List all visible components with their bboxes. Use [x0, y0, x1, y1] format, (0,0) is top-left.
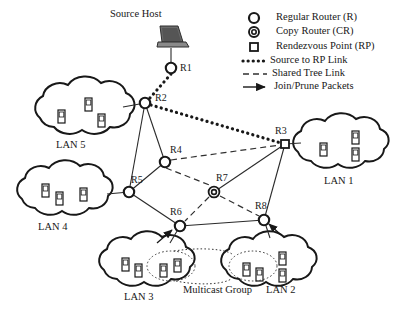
- lan-label-lan5: LAN 5: [56, 140, 85, 151]
- node-r1[interactable]: [166, 63, 176, 73]
- node-r7[interactable]: [209, 187, 220, 198]
- legend-double-circle-icon: [249, 27, 259, 37]
- source-host-laptop: [157, 26, 189, 47]
- legend-label-source-to-rp: Source to RP Link: [270, 55, 347, 66]
- lan-label-lan4: LAN 4: [38, 222, 67, 233]
- lan-cloud-lan4: [17, 160, 112, 215]
- legend-label-shared-tree: Shared Tree Link: [272, 68, 345, 79]
- lan-cloud-lan3: [99, 231, 194, 286]
- node-label-r6: R6: [170, 207, 182, 217]
- link-r7-r6-tree: [185, 197, 209, 221]
- node-r3[interactable]: [281, 140, 289, 148]
- lan-cloud-lan5: [35, 77, 134, 134]
- node-r5[interactable]: [124, 187, 134, 197]
- legend-label-regular-router: Regular Router (R): [276, 12, 357, 23]
- source-to-rp-links: [149, 74, 281, 143]
- source-host-label: Source Host: [110, 9, 162, 20]
- link-r2-r3-srp: [151, 105, 281, 143]
- link-r4-r3-tree: [171, 145, 280, 160]
- link-r7-r8-tree: [220, 196, 259, 216]
- link-r4-r7-tree: [166, 168, 212, 186]
- node-label-r2: R2: [155, 93, 167, 103]
- node-r2[interactable]: [140, 98, 150, 108]
- multicast-group-label: Multicast Group: [183, 285, 252, 296]
- node-r4[interactable]: [160, 157, 170, 167]
- legend-label-rendezvous-point: Rendezvous Point (RP): [276, 41, 375, 52]
- link-r2-r4: [145, 103, 165, 162]
- legend-circle-open-icon: [249, 13, 259, 23]
- node-r8[interactable]: [259, 215, 269, 225]
- lan-cloud-lan1: [293, 113, 388, 168]
- node-r6[interactable]: [175, 221, 185, 231]
- legend-label-copy-router: Copy Router (CR): [276, 26, 354, 37]
- lan-cloud-lan2: [221, 231, 316, 286]
- node-label-r8: R8: [255, 201, 267, 211]
- link-r6-r8: [180, 220, 264, 226]
- lan-label-lan2: LAN 2: [266, 285, 295, 296]
- link-r8-r3: [264, 144, 285, 220]
- legend-symbols: [243, 13, 267, 87]
- legend-label-join-prune: Join/Prune Packets: [274, 81, 354, 92]
- lan-label-lan3: LAN 3: [124, 292, 153, 303]
- network-diagram: Source Host R1 R2 R3 R4 R5 R6 R7 R8 LAN …: [0, 0, 410, 320]
- node-label-r4: R4: [170, 145, 182, 155]
- node-label-r7: R7: [216, 173, 228, 183]
- lan-label-lan1: LAN 1: [324, 176, 353, 187]
- node-label-r1: R1: [180, 63, 192, 73]
- legend-square-open-icon: [250, 43, 258, 51]
- node-label-r3: R3: [275, 126, 287, 136]
- link-r7-r3: [214, 144, 285, 192]
- node-label-r5: R5: [131, 175, 143, 185]
